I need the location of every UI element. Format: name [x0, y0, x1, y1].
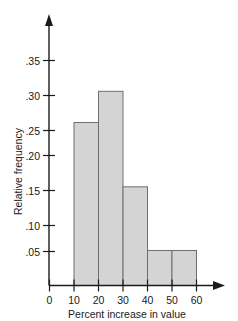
bar-30-40 — [148, 250, 173, 285]
x-axis-title: Percent increase in value — [68, 308, 186, 320]
x-tick-label-40: 40 — [142, 294, 154, 306]
y-tick-label-005: .05 — [25, 246, 40, 258]
y-axis: .35 .30 .25 .20 .15 .10 .05 Relative fre… — [12, 14, 55, 286]
x-axis-arrow-icon — [213, 281, 225, 290]
bar-10-20 — [99, 91, 124, 285]
y-tick-label-015: .15 — [25, 185, 40, 197]
bar-40-50 — [172, 250, 197, 285]
bar-20-30 — [123, 187, 148, 286]
x-axis: 0 10 20 30 40 50 60 Percent increase in … — [47, 280, 225, 321]
x-tick-label-30: 30 — [117, 294, 129, 306]
y-tick-label-020: .20 — [25, 150, 40, 162]
chart-canvas: .35 .30 .25 .20 .15 .10 .05 Relative fre… — [0, 0, 238, 321]
y-tick-label-025: .25 — [25, 125, 40, 137]
x-tick-label-50: 50 — [166, 294, 178, 306]
y-axis-arrow-icon — [45, 14, 53, 26]
x-tick-label-10: 10 — [68, 294, 80, 306]
bar-series — [74, 91, 197, 285]
bar-0-10 — [74, 123, 99, 286]
y-tick-label-030: .30 — [25, 90, 40, 102]
y-tick-label-010: .10 — [25, 220, 40, 232]
x-tick-label-0: 0 — [47, 294, 53, 306]
histogram-figure: .35 .30 .25 .20 .15 .10 .05 Relative fre… — [0, 0, 238, 321]
x-tick-label-60: 60 — [191, 294, 203, 306]
x-tick-label-20: 20 — [93, 294, 105, 306]
y-tick-label-035: .35 — [25, 55, 40, 67]
y-axis-title: Relative frequency — [12, 127, 24, 215]
